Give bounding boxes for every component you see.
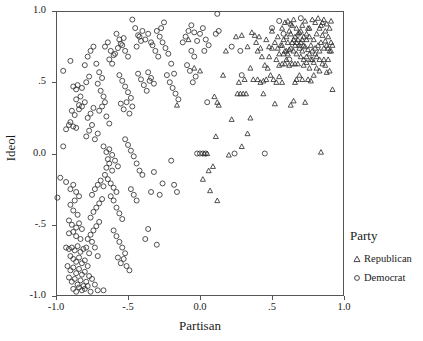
y-tick-mark: [52, 154, 56, 155]
legend: Party Republican Democrat: [350, 228, 423, 291]
y-tick-mark: [52, 225, 56, 226]
x-axis-label: Partisan: [140, 318, 260, 334]
y-tick-label: -1.0: [16, 289, 46, 300]
y-tick-label: -.5: [16, 218, 46, 229]
x-tick-label: -1.0: [36, 301, 76, 312]
legend-label-democrat: Democrat: [364, 272, 405, 283]
x-tick-label: 1.0: [324, 301, 364, 312]
y-tick-mark: [52, 82, 56, 83]
x-tick-mark: [344, 296, 345, 300]
y-tick-mark: [52, 11, 56, 12]
legend-item-republican[interactable]: Republican: [350, 253, 423, 264]
x-tick-mark: [272, 296, 273, 300]
legend-item-democrat[interactable]: Democrat: [350, 272, 423, 283]
x-tick-label: .5: [252, 301, 292, 312]
x-tick-mark: [56, 296, 57, 300]
scatter-plot-figure: -1.0-.50.0.51.0-1.0-.50.0.51.0 Ideol Par…: [0, 0, 423, 341]
circle-marker-icon: [350, 274, 364, 282]
x-tick-label: -.5: [108, 301, 148, 312]
x-tick-mark: [200, 296, 201, 300]
y-tick-label: .5: [16, 75, 46, 86]
y-tick-label: 0.0: [16, 147, 46, 158]
x-tick-mark: [128, 296, 129, 300]
legend-label-republican: Republican: [364, 253, 412, 264]
x-tick-label: 0.0: [180, 301, 220, 312]
y-tick-label: 1.0: [16, 4, 46, 15]
triangle-marker-icon: [350, 255, 364, 263]
legend-title: Party: [350, 228, 423, 244]
y-axis-label: Ideol: [3, 118, 19, 178]
plot-area: [56, 11, 344, 296]
